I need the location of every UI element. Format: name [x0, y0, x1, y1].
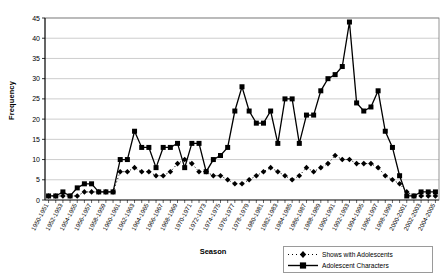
data-point-1-42 — [347, 20, 352, 25]
data-point-0-15 — [153, 173, 159, 179]
data-point-1-9 — [111, 189, 116, 194]
data-point-0-48 — [390, 177, 396, 183]
data-point-1-37 — [311, 113, 316, 118]
data-point-1-35 — [297, 141, 302, 146]
y-tick-label-30: 30 — [32, 75, 40, 82]
data-point-1-54 — [433, 189, 438, 194]
data-point-1-27 — [240, 84, 245, 89]
data-point-0-13 — [139, 169, 145, 175]
data-point-0-30 — [261, 169, 267, 175]
data-point-0-32 — [275, 169, 281, 175]
data-point-0-27 — [239, 181, 245, 187]
chart-legend: Shows with Adolescents Adolescent Charac… — [283, 246, 433, 273]
data-point-0-35 — [297, 173, 303, 179]
data-point-1-2 — [60, 189, 65, 194]
data-point-1-0 — [46, 193, 51, 198]
data-point-1-5 — [82, 181, 87, 186]
data-point-1-50 — [404, 193, 409, 198]
data-point-0-44 — [361, 161, 367, 167]
data-point-1-47 — [383, 129, 388, 134]
y-axis-title: Frequency — [2, 0, 20, 200]
data-point-1-23 — [211, 157, 216, 162]
legend-key-diamond-dashed — [287, 249, 319, 260]
data-point-0-12 — [132, 165, 138, 171]
y-tick-label-5: 5 — [36, 176, 40, 183]
data-point-1-15 — [154, 165, 159, 170]
y-tick-label-0: 0 — [36, 197, 40, 204]
data-point-1-14 — [146, 145, 151, 150]
data-point-1-7 — [96, 189, 101, 194]
legend-label-1: Adolescent Characters — [322, 262, 389, 269]
data-point-1-22 — [204, 169, 209, 174]
data-point-0-31 — [268, 165, 274, 171]
data-point-1-43 — [354, 100, 359, 105]
data-point-0-37 — [311, 169, 317, 175]
data-point-0-29 — [254, 173, 260, 179]
data-point-1-33 — [282, 96, 287, 101]
data-point-1-40 — [333, 72, 338, 77]
data-point-1-25 — [225, 145, 230, 150]
legend-item-shows-with-adolescents: Shows with Adolescents — [287, 249, 429, 260]
data-point-0-47 — [382, 173, 388, 179]
data-point-0-14 — [146, 169, 152, 175]
data-point-1-11 — [125, 157, 130, 162]
data-point-0-20 — [189, 161, 195, 167]
data-point-1-31 — [268, 109, 273, 114]
plot-area: 0510152025303540451950-19511952-19531954… — [0, 0, 446, 250]
legend-label-0: Shows with Adolescents — [322, 251, 393, 258]
data-point-1-13 — [139, 145, 144, 150]
data-point-0-16 — [160, 173, 166, 179]
data-point-0-5 — [82, 189, 88, 195]
data-point-1-10 — [118, 157, 123, 162]
data-point-0-45 — [368, 161, 374, 167]
data-point-1-18 — [175, 141, 180, 146]
y-tick-label-40: 40 — [32, 35, 40, 42]
data-point-0-34 — [289, 177, 295, 183]
data-point-0-18 — [175, 161, 181, 167]
data-point-1-36 — [304, 113, 309, 118]
data-point-0-25 — [225, 177, 231, 183]
data-point-0-23 — [211, 173, 217, 179]
data-point-0-11 — [125, 169, 131, 175]
plot-border — [45, 18, 439, 200]
data-point-0-26 — [232, 181, 238, 187]
y-tick-label-10: 10 — [32, 156, 40, 163]
data-point-1-53 — [426, 189, 431, 194]
data-point-0-41 — [339, 157, 345, 163]
data-point-1-29 — [254, 121, 259, 126]
data-point-1-52 — [419, 189, 424, 194]
data-point-1-46 — [376, 88, 381, 93]
data-point-1-49 — [397, 173, 402, 178]
data-point-1-38 — [318, 88, 323, 93]
data-point-0-33 — [282, 173, 288, 179]
data-point-1-41 — [340, 64, 345, 69]
y-tick-label-35: 35 — [32, 55, 40, 62]
y-tick-label-25: 25 — [32, 95, 40, 102]
data-point-1-17 — [168, 145, 173, 150]
data-point-0-6 — [89, 189, 95, 195]
data-point-1-28 — [247, 109, 252, 114]
y-tick-label-15: 15 — [32, 136, 40, 143]
legend-key-square-solid — [287, 260, 319, 271]
data-point-1-3 — [68, 193, 73, 198]
data-point-0-43 — [354, 161, 360, 167]
data-point-0-39 — [325, 161, 331, 167]
data-point-1-39 — [325, 76, 330, 81]
data-point-1-12 — [132, 129, 137, 134]
series-line-1 — [49, 22, 436, 196]
data-point-1-51 — [411, 193, 416, 198]
data-point-0-4 — [74, 193, 80, 199]
data-point-1-26 — [232, 109, 237, 114]
data-point-1-48 — [390, 145, 395, 150]
data-point-1-21 — [197, 141, 202, 146]
data-point-1-24 — [218, 153, 223, 158]
data-point-0-38 — [318, 165, 324, 171]
y-tick-label-20: 20 — [32, 116, 40, 123]
data-point-1-44 — [361, 109, 366, 114]
data-point-0-24 — [218, 173, 224, 179]
data-point-1-1 — [53, 193, 58, 198]
y-tick-label-45: 45 — [32, 15, 40, 22]
data-point-1-34 — [290, 96, 295, 101]
data-point-0-42 — [347, 157, 353, 163]
data-point-1-30 — [261, 121, 266, 126]
